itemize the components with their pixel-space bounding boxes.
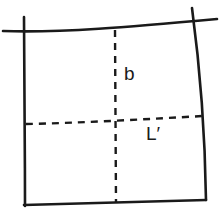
label-l-prime: L′	[146, 124, 160, 143]
figure-canvas: b L′	[0, 0, 221, 214]
vertical-center-line	[115, 30, 116, 203]
left-edge	[24, 17, 25, 206]
top-edge	[3, 19, 217, 31]
right-edge	[192, 8, 206, 200]
label-b: b	[124, 64, 135, 83]
geometry-drawing	[0, 0, 221, 214]
